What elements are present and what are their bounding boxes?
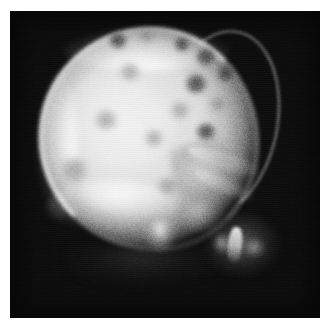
temporal-bone-highlight xyxy=(244,239,266,257)
lytic-lesion xyxy=(140,30,154,43)
radiograph-figure: Lateral skull radiograph showing multipl… xyxy=(0,0,331,331)
lytic-lesion xyxy=(210,97,226,112)
skull-base-process xyxy=(138,219,180,265)
radiograph-plate xyxy=(10,11,320,318)
lytic-lesion xyxy=(145,130,163,147)
lytic-lesion xyxy=(61,158,87,182)
figure-alt-text: Lateral skull radiograph showing multipl… xyxy=(0,0,1,1)
lytic-lesion xyxy=(171,102,189,119)
lytic-lesion xyxy=(217,65,235,82)
lytic-lesion xyxy=(109,32,127,49)
lytic-lesion xyxy=(174,37,190,52)
